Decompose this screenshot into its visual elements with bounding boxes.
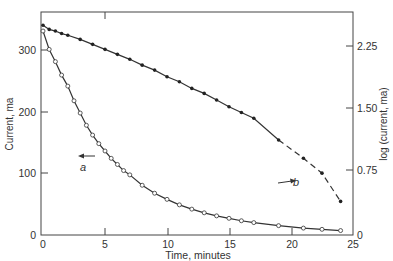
data-point-b — [116, 53, 120, 57]
data-point-a — [177, 203, 181, 207]
data-point-a — [277, 224, 281, 228]
annotation-a: a — [78, 154, 95, 174]
left-axis-ticks — [41, 50, 48, 173]
y-axis-label-right: log (current, ma) — [378, 87, 389, 160]
data-point-b — [277, 138, 281, 142]
data-point-a — [128, 173, 132, 177]
data-point-b — [240, 111, 244, 115]
data-point-b — [227, 105, 231, 109]
data-point-b — [54, 29, 58, 33]
data-point-a — [53, 60, 57, 64]
data-point-b — [41, 23, 45, 27]
data-point-b — [153, 68, 157, 72]
data-point-b — [66, 33, 70, 37]
chart: 0 100 200 300 0 0.75 1.50 2.25 0 5 10 15… — [0, 0, 393, 261]
annotation-b-label: b — [293, 176, 299, 188]
right-tick-labels: 0 0.75 1.50 2.25 — [357, 40, 378, 241]
data-point-b — [202, 92, 206, 96]
y-tick-200: 200 — [18, 106, 36, 118]
annotation-b: b — [278, 176, 299, 188]
data-point-a — [122, 169, 126, 173]
data-point-a — [103, 149, 107, 153]
data-point-a — [215, 214, 219, 218]
data-point-a — [202, 211, 206, 215]
x-tick-20: 20 — [286, 238, 298, 250]
data-point-b — [178, 80, 182, 84]
y-right-tick-075: 0.75 — [357, 164, 378, 176]
data-point-a — [190, 207, 194, 211]
data-point-a — [239, 219, 243, 223]
data-point-a — [115, 162, 119, 166]
x-tick-0: 0 — [40, 238, 46, 250]
right-axis-ticks — [346, 46, 353, 170]
data-point-b — [302, 156, 306, 160]
data-point-a — [153, 191, 157, 195]
data-point-a — [91, 133, 95, 137]
data-point-a — [339, 229, 343, 233]
series-a — [41, 29, 343, 233]
data-point-a — [252, 221, 256, 225]
left-tick-labels: 0 100 200 300 — [18, 44, 36, 241]
data-point-a — [60, 73, 64, 77]
data-point-a — [109, 156, 113, 160]
x-tick-5: 5 — [102, 238, 108, 250]
y-right-tick-150: 1.50 — [357, 102, 378, 114]
data-point-a — [97, 142, 101, 146]
y-right-tick-225: 2.25 — [357, 40, 378, 52]
y-tick-300: 300 — [18, 44, 36, 56]
data-point-b — [91, 43, 95, 47]
x-axis-label: Time, minutes — [165, 249, 231, 261]
x-axis-ticks — [105, 228, 292, 235]
data-point-a — [66, 84, 70, 88]
data-point-b — [339, 200, 343, 204]
data-point-b — [60, 32, 64, 36]
data-point-b — [215, 98, 219, 102]
data-point-b — [252, 117, 256, 121]
data-point-b — [165, 75, 169, 79]
data-point-a — [227, 216, 231, 220]
data-point-a — [140, 183, 144, 187]
data-point-b — [190, 87, 194, 91]
annotation-a-label: a — [80, 161, 86, 173]
y-axis-label: Current, ma — [4, 97, 15, 150]
data-point-b — [320, 171, 324, 175]
data-point-a — [320, 227, 324, 231]
data-point-a — [165, 197, 169, 201]
data-point-a — [84, 123, 88, 127]
data-point-b — [47, 28, 51, 32]
data-point-b — [140, 63, 144, 67]
data-point-a — [78, 111, 82, 115]
y-tick-100: 100 — [18, 167, 36, 179]
data-point-a — [41, 29, 45, 33]
y-tick-0: 0 — [30, 229, 36, 241]
data-point-b — [128, 58, 132, 62]
data-point-a — [47, 47, 51, 51]
data-point-a — [301, 226, 305, 230]
x-tick-25: 25 — [347, 238, 359, 250]
data-point-a — [72, 99, 76, 103]
data-point-b — [103, 48, 107, 52]
data-point-b — [78, 38, 82, 42]
